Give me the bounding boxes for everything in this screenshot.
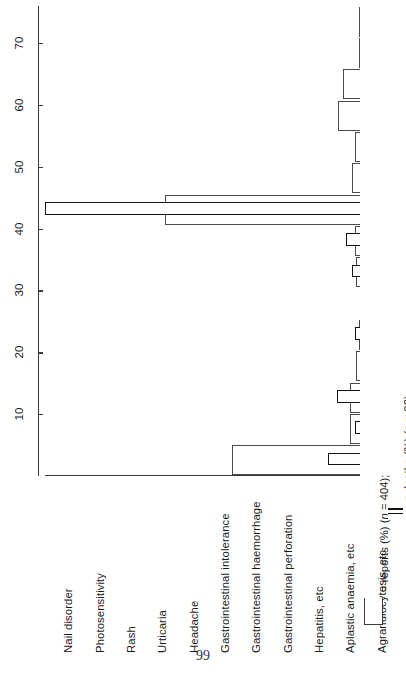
category-label: Nail disorder bbox=[62, 588, 74, 653]
category-label: Gastrointestinal perforation bbox=[282, 515, 294, 653]
bar-lane bbox=[45, 37, 360, 68]
bar-lane bbox=[45, 257, 360, 288]
category-label: Photosensitivity bbox=[94, 573, 106, 653]
category-label: Gastrointestinal intolerance bbox=[219, 513, 231, 653]
category-label: Headache bbox=[188, 601, 200, 653]
bar-reports bbox=[343, 69, 360, 99]
bar-lane bbox=[45, 100, 360, 131]
bar-deaths bbox=[45, 202, 360, 215]
value-axis-tick-label: 40 bbox=[12, 216, 26, 242]
value-axis-tick-label: 20 bbox=[12, 339, 26, 365]
category-label: Hepatitis, etc bbox=[313, 586, 325, 653]
value-axis-tick bbox=[38, 167, 43, 168]
category-label: Urticaria bbox=[156, 610, 168, 653]
category-label: Aplastic anaemia, etc bbox=[344, 544, 356, 653]
legend-label-reports: = reports (%) (n = 404); bbox=[378, 475, 390, 592]
page-number: 99 bbox=[0, 648, 406, 664]
legend-label-deaths: = deaths (%) (n = 90) bbox=[402, 395, 406, 502]
bar-reports bbox=[338, 101, 360, 131]
bar-lane bbox=[45, 445, 360, 476]
value-axis-tick bbox=[38, 43, 43, 44]
value-axis-tick-label: 30 bbox=[12, 277, 26, 303]
category-label: Gastrointestinal haemorrhage bbox=[250, 501, 262, 653]
value-axis-tick bbox=[38, 290, 43, 291]
value-axis-tick-label: 50 bbox=[12, 154, 26, 180]
value-axis-tick-label: 10 bbox=[12, 401, 26, 427]
bar-lane bbox=[45, 351, 360, 382]
bar-lane bbox=[45, 413, 360, 444]
bar-deaths bbox=[328, 453, 360, 466]
category-axis-labels: Nail disorderPhotosensitivityRashUrticar… bbox=[0, 487, 380, 662]
value-axis-tick-label: 60 bbox=[12, 92, 26, 118]
value-axis-tick bbox=[38, 352, 43, 353]
bar-deaths bbox=[337, 390, 360, 403]
plot-area bbox=[45, 6, 360, 476]
bar-lane bbox=[45, 194, 360, 225]
bar-lane bbox=[45, 6, 360, 37]
value-axis-tick bbox=[38, 414, 43, 415]
bar-lane bbox=[45, 69, 360, 100]
bar-reports bbox=[352, 163, 360, 193]
double-line-swatch-icon bbox=[388, 508, 403, 516]
value-axis-tick bbox=[38, 105, 43, 106]
value-axis-tick-label: 70 bbox=[12, 30, 26, 56]
bar-reports bbox=[359, 7, 360, 37]
value-axis-line bbox=[38, 6, 39, 476]
bar-lane bbox=[45, 163, 360, 194]
bar-lane bbox=[45, 225, 360, 256]
bar-reports bbox=[359, 38, 360, 68]
bar-lane bbox=[45, 288, 360, 319]
value-axis-tick bbox=[38, 229, 43, 230]
bar-lane bbox=[45, 382, 360, 413]
bar-lane bbox=[45, 319, 360, 350]
bar-deaths bbox=[346, 233, 360, 246]
chart-legend: = reports (%) (n = 404); = deaths (%) (n… bbox=[360, 330, 406, 678]
open-box-swatch-icon bbox=[364, 598, 383, 625]
value-axis: 10203040506070 bbox=[0, 0, 46, 486]
figure: 10203040506070 Nail disorderPhotosensiti… bbox=[0, 0, 406, 678]
bar-deaths bbox=[352, 265, 360, 278]
bar-reports bbox=[355, 132, 360, 162]
bar-lane bbox=[45, 131, 360, 162]
